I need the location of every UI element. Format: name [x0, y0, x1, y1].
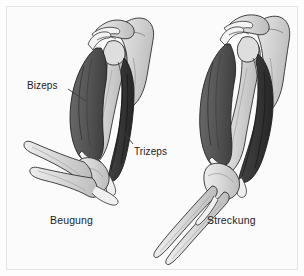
panel-flexion — [24, 18, 154, 205]
muscle-biceps-right — [200, 44, 236, 168]
label-bizeps: Bizeps — [27, 80, 58, 91]
caption-streckung: Streckung — [207, 214, 256, 226]
label-trizeps: Trizeps — [134, 146, 167, 157]
panel-extension — [154, 15, 290, 265]
anatomy-illustration — [0, 0, 304, 276]
muscle-biceps-left — [70, 48, 107, 163]
anatomy-figure: Bizeps Trizeps Beugung Streckung — [0, 0, 304, 276]
caption-beugung: Beugung — [50, 214, 93, 226]
bone-humerus-head-left — [103, 41, 125, 66]
bone-humerus-head-right — [237, 37, 259, 62]
